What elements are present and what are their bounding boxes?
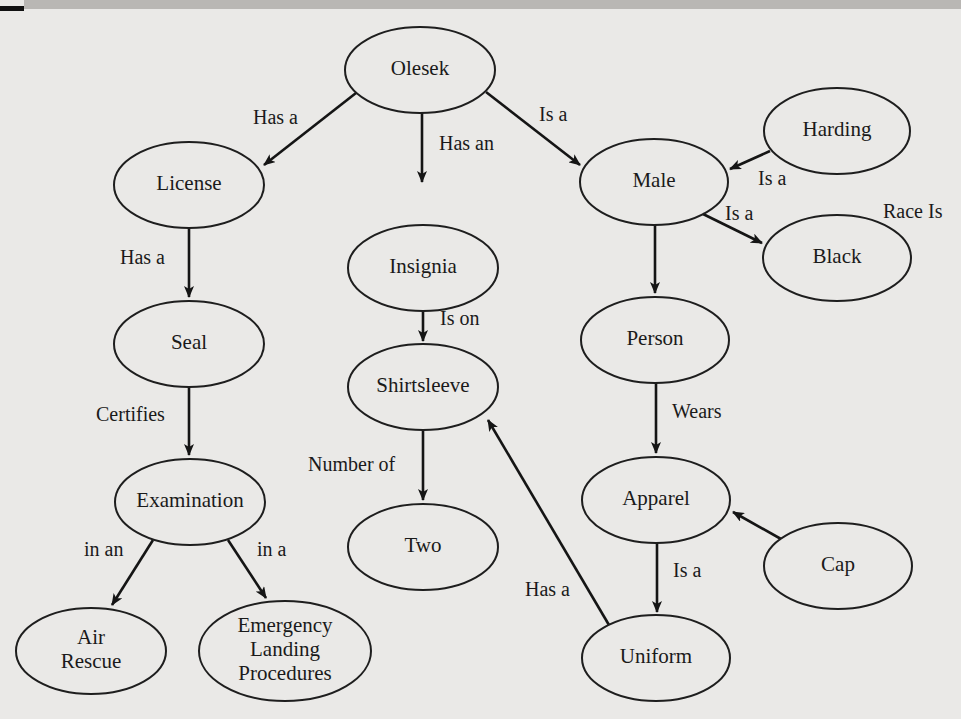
node-label: Harding xyxy=(803,117,872,141)
node-label: License xyxy=(156,171,221,195)
edge-label-examination-to-emergency: in a xyxy=(257,538,287,560)
node-apparel: Apparel xyxy=(582,457,730,543)
free-label-race-is: Race Is xyxy=(883,200,943,222)
node-black: Black xyxy=(763,215,911,301)
edge-label-uniform-to-shirtsleeve: Has a xyxy=(525,578,570,600)
node-label: Person xyxy=(626,326,684,350)
node-air-rescue: AirRescue xyxy=(16,608,166,694)
node-label: Rescue xyxy=(61,649,122,673)
node-label: Black xyxy=(813,244,862,268)
edge-cap-to-apparel xyxy=(733,512,781,539)
edge-label-license-to-seal: Has a xyxy=(120,246,165,268)
edge-label-olesek-to-male: Is a xyxy=(539,103,567,125)
edge-olesek-to-license xyxy=(264,93,356,165)
node-harding: Harding xyxy=(764,88,910,174)
node-label: Two xyxy=(404,533,441,557)
edge-label-person-to-apparel: Wears xyxy=(672,400,722,422)
edge-label-male-to-black: Is a xyxy=(725,202,753,224)
edge-label-examination-to-air_rescue: in an xyxy=(84,538,123,560)
node-label: Landing xyxy=(250,637,320,661)
node-cap: Cap xyxy=(764,523,912,609)
node-uniform: Uniform xyxy=(582,615,730,701)
edge-label-harding-to-male: Is a xyxy=(758,167,786,189)
node-label: Procedures xyxy=(238,661,331,685)
node-label: Cap xyxy=(821,552,855,576)
edge-label-olesek-to-license: Has a xyxy=(253,106,298,128)
node-male: Male xyxy=(580,139,728,225)
node-examination: Examination xyxy=(115,459,265,545)
node-label: Uniform xyxy=(620,644,692,668)
node-label: Examination xyxy=(136,488,244,512)
edge-label-shirtsleeve-to-two: Number of xyxy=(308,453,396,475)
diagram-page: OlesekLicenseInsigniaMaleHardingBlackSea… xyxy=(0,0,961,719)
nodes-layer: OlesekLicenseInsigniaMaleHardingBlackSea… xyxy=(16,27,912,701)
edge-label-olesek-to-insignia: Has an xyxy=(439,132,494,154)
semantic-network-diagram: OlesekLicenseInsigniaMaleHardingBlackSea… xyxy=(0,0,961,719)
edge-label-seal-to-examination: Certifies xyxy=(96,403,165,425)
node-two: Two xyxy=(348,504,498,590)
edge-label-apparel-to-uniform: Is a xyxy=(673,559,701,581)
node-label: Olesek xyxy=(391,56,450,80)
node-seal: Seal xyxy=(114,301,264,387)
node-insignia: Insignia xyxy=(348,225,498,311)
node-shirtsleeve: Shirtsleeve xyxy=(348,344,498,430)
node-olesek: Olesek xyxy=(345,27,495,113)
node-label: Insignia xyxy=(389,254,457,278)
node-label: Apparel xyxy=(622,486,690,510)
edge-label-insignia-to-shirtsleeve: Is on xyxy=(440,307,479,329)
node-label: Air xyxy=(77,625,105,649)
node-label: Emergency xyxy=(237,613,333,637)
node-label: Shirtsleeve xyxy=(376,373,469,397)
node-license: License xyxy=(114,142,264,228)
node-label: Male xyxy=(632,168,675,192)
node-person: Person xyxy=(581,297,729,383)
node-emergency: EmergencyLandingProcedures xyxy=(199,601,371,701)
node-label: Seal xyxy=(171,330,207,354)
